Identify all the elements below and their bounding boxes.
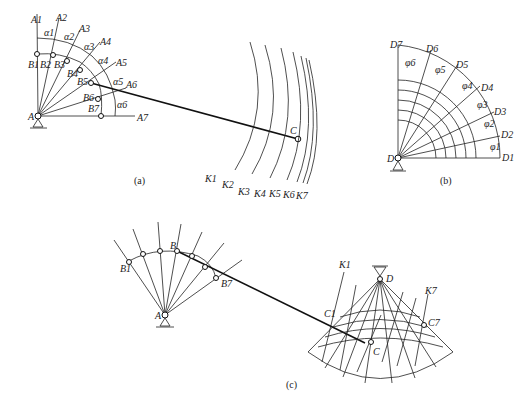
label-A1: A1 <box>30 14 42 25</box>
label-A2: A2 <box>55 12 67 23</box>
label-c-K7: K7 <box>424 285 438 296</box>
caption-b: (b) <box>440 175 452 187</box>
label-K6: K6 <box>282 189 295 200</box>
label-D6: D6 <box>425 43 438 54</box>
label-phi2: φ2 <box>484 118 495 129</box>
label-alpha2: α2 <box>64 31 74 42</box>
panel-a: A1 A2 A3 A4 A5 A6 A7 B1 B2 B3 B4 B5 B6 B… <box>27 12 317 201</box>
label-c-B: B <box>170 240 176 251</box>
label-alpha4: α4 <box>98 55 108 66</box>
label-D4: D4 <box>480 82 493 93</box>
label-alpha3: α3 <box>84 41 94 52</box>
label-alpha1: α1 <box>44 27 54 38</box>
label-D7: D7 <box>389 39 403 50</box>
label-B3: B3 <box>54 59 65 70</box>
panel-a-coupler-curves <box>235 42 317 184</box>
panel-c: B1 B B7 A <box>114 222 453 391</box>
label-A4: A4 <box>99 36 111 47</box>
label-D: D <box>386 153 395 164</box>
label-phi5: φ5 <box>435 64 446 75</box>
caption-c: (c) <box>286 379 297 391</box>
label-c-B7: B7 <box>221 278 233 289</box>
label-K4: K4 <box>253 188 266 199</box>
label-D1: D1 <box>501 152 514 163</box>
label-phi3: φ3 <box>477 99 488 110</box>
panel-c-crank-rays <box>114 222 242 315</box>
label-K7: K7 <box>295 190 309 201</box>
label-c-C1: C1 <box>324 308 336 319</box>
label-phi4: φ4 <box>462 80 473 91</box>
label-A6: A6 <box>125 79 137 90</box>
label-B7: B7 <box>88 103 100 114</box>
label-phi1: φ1 <box>490 141 501 152</box>
panel-b: D7 D6 D5 D4 D3 D2 D1 φ6 φ5 φ4 φ3 φ2 φ1 D… <box>386 39 514 187</box>
label-A7: A7 <box>136 112 149 123</box>
label-D3: D3 <box>493 106 506 117</box>
label-A: A <box>27 111 35 122</box>
label-alpha5: α5 <box>113 76 123 87</box>
label-B6: B6 <box>83 92 94 103</box>
label-K1: K1 <box>204 173 217 184</box>
label-c-C: C <box>373 346 380 357</box>
label-B5: B5 <box>77 76 88 87</box>
label-A5: A5 <box>115 57 127 68</box>
label-c-K1: K1 <box>338 259 351 270</box>
linkage-synthesis-figure: A1 A2 A3 A4 A5 A6 A7 B1 B2 B3 B4 B5 B6 B… <box>0 0 530 400</box>
label-B2: B2 <box>40 59 51 70</box>
label-phi6: φ6 <box>405 57 416 68</box>
label-K3: K3 <box>237 186 250 197</box>
label-K2: K2 <box>221 179 234 190</box>
label-K5: K5 <box>268 188 281 199</box>
label-c-D: D <box>385 273 394 284</box>
label-A3: A3 <box>78 23 90 34</box>
label-D5: D5 <box>455 59 468 70</box>
caption-a: (a) <box>134 175 145 187</box>
label-alpha6: α6 <box>117 99 127 110</box>
label-B1: B1 <box>28 59 39 70</box>
label-c-B1: B1 <box>120 263 131 274</box>
label-D2: D2 <box>500 129 513 140</box>
label-c-C7: C7 <box>428 317 441 328</box>
label-C: C <box>290 125 297 136</box>
label-c-A: A <box>154 310 162 321</box>
